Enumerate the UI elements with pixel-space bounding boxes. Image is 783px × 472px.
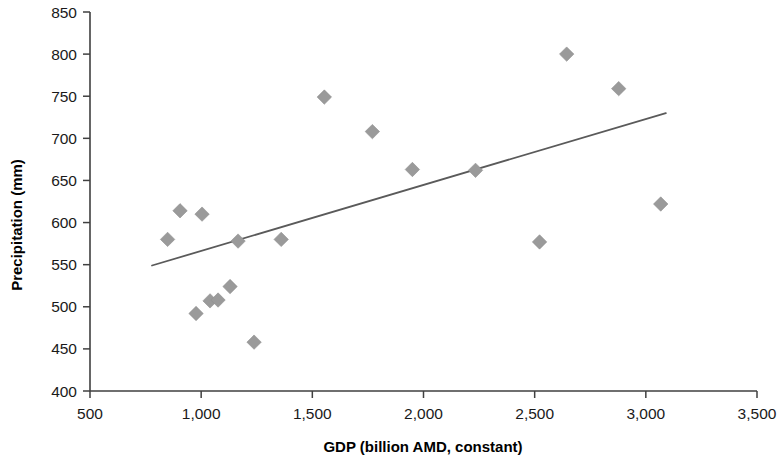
y-axis-tick-labels: 400450500550600650700750800850 <box>51 4 77 400</box>
x-axis-tick-labels: 5001,0001,5002,0002,5003,0003,500 <box>77 405 777 422</box>
y-tick-label: 850 <box>51 4 77 21</box>
data-point-marker <box>173 204 187 218</box>
x-tick-label: 1,500 <box>293 405 332 422</box>
data-point-marker <box>365 124 379 138</box>
y-tick-label: 500 <box>51 298 77 315</box>
y-tick-label: 700 <box>51 130 77 147</box>
x-tick-label: 3,000 <box>626 405 665 422</box>
x-tick-label: 2,000 <box>404 405 443 422</box>
x-tick-label: 3,500 <box>738 405 777 422</box>
y-tick-label: 750 <box>51 88 77 105</box>
data-point-marker <box>559 47 573 61</box>
y-tick-label: 550 <box>51 256 77 273</box>
y-tick-label: 800 <box>51 46 77 63</box>
y-tick-label: 450 <box>51 340 77 357</box>
data-point-marker <box>317 90 331 104</box>
x-axis-title: GDP (billion AMD, constant) <box>323 438 522 455</box>
y-tick-label: 650 <box>51 172 77 189</box>
x-axis-ticks <box>90 391 757 398</box>
data-point-marker <box>274 232 288 246</box>
data-point-marker <box>160 232 174 246</box>
data-point-marker <box>468 163 482 177</box>
data-point-marker <box>405 162 419 176</box>
y-tick-label: 600 <box>51 214 77 231</box>
x-tick-label: 1,000 <box>182 405 221 422</box>
trend-line-group <box>152 113 666 265</box>
data-point-marker <box>195 207 209 221</box>
y-axis-ticks <box>83 12 90 391</box>
trend-line <box>152 113 666 265</box>
y-axis-title: Precipitation (mm) <box>8 159 25 291</box>
x-tick-label: 2,500 <box>515 405 554 422</box>
data-point-marker <box>223 279 237 293</box>
data-point-marker <box>654 197 668 211</box>
data-points <box>160 47 668 349</box>
data-point-marker <box>247 335 261 349</box>
scatter-chart: 400450500550600650700750800850 5001,0001… <box>0 0 783 472</box>
plot-area: 400450500550600650700750800850 5001,0001… <box>0 0 783 472</box>
y-tick-label: 400 <box>51 383 77 400</box>
x-tick-label: 500 <box>77 405 103 422</box>
data-point-marker <box>189 306 203 320</box>
data-point-marker <box>231 234 245 248</box>
data-point-marker <box>612 81 626 95</box>
data-point-marker <box>532 235 546 249</box>
